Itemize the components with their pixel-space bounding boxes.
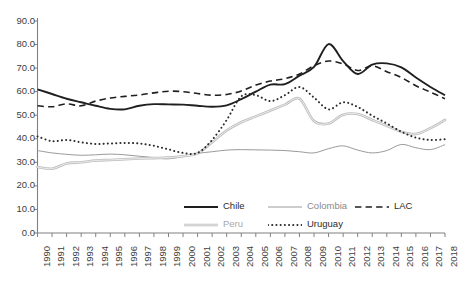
legend-swatch-peru-icon <box>184 217 218 229</box>
legend-item-chile[interactable]: Chile <box>184 198 245 212</box>
legend-label: Peru <box>223 218 243 229</box>
legend-swatch-chile-icon <box>184 199 218 211</box>
legend-item-peru[interactable]: Peru <box>184 216 243 230</box>
legend-label: Chile <box>223 200 245 211</box>
legend-label: Colombia <box>307 200 347 211</box>
legend-label: LAC <box>394 200 412 211</box>
legend-item-colombia[interactable]: Colombia <box>268 198 347 212</box>
legend-swatch-lac-icon <box>355 199 389 211</box>
legend-label: Uruguay <box>307 218 343 229</box>
legend-swatch-uruguay-icon <box>268 217 302 229</box>
legend-swatch-colombia-icon <box>268 199 302 211</box>
legend-item-lac[interactable]: LAC <box>355 198 412 212</box>
legend-item-uruguay[interactable]: Uruguay <box>268 216 343 230</box>
